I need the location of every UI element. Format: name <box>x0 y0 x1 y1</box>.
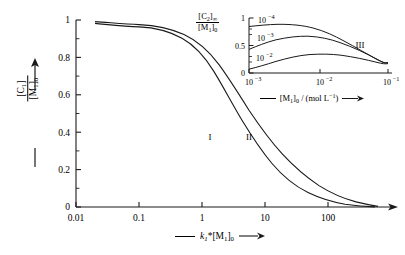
svg-text:10: 10 <box>257 34 265 43</box>
inset-xtick-10-1: 10 −1 <box>383 75 399 87</box>
main-plot-svg: 0 0.2 0.4 0.6 0.8 1 0.01 0.1 1 10 100 I … <box>0 0 405 255</box>
main-xtick-001: 0.01 <box>68 213 85 223</box>
svg-text:−4: −4 <box>268 13 275 20</box>
main-xtick-10: 10 <box>260 213 270 223</box>
inset-xtick-10-3: 10 −3 <box>245 75 261 87</box>
inset-ytick-0: 0 <box>241 69 245 78</box>
inset-y-numerator: [C2]∞ <box>196 12 219 22</box>
svg-text:−1: −1 <box>393 75 400 82</box>
main-x-axis-label: k1*[M1]0 <box>140 231 300 242</box>
main-xtick-01: 0.1 <box>133 213 145 223</box>
inset-x-label-arrow-icon <box>342 94 364 103</box>
main-ytick-04: 0.4 <box>58 128 70 138</box>
svg-text:−2: −2 <box>266 51 273 58</box>
inset-curve-label-10-4: 10 −4 <box>258 13 275 25</box>
main-ytick-0: 0 <box>65 202 70 212</box>
main-ytick-08: 0.8 <box>58 53 70 63</box>
inset-ytick-1: 1 <box>241 14 245 23</box>
main-curve-label-II: II <box>246 132 252 142</box>
svg-text:−3: −3 <box>267 31 274 38</box>
main-x-label-dash-left <box>175 236 195 237</box>
figure-container: [C1] [M1]0 <box>0 0 405 255</box>
main-xtick-1: 1 <box>200 213 205 223</box>
svg-text:−2: −2 <box>326 75 333 82</box>
inset-region-label-III: III <box>356 40 365 50</box>
inset-y-axis-label: [C2]∞ [M1]0 <box>196 12 219 34</box>
svg-text:−3: −3 <box>255 75 262 82</box>
inset-plot-group: 0 0.5 1 10 −3 10 −2 10 −1 <box>235 13 399 87</box>
main-ytick-06: 0.6 <box>58 90 70 100</box>
main-ytick-1: 1 <box>65 15 70 25</box>
main-ytick-02: 0.2 <box>58 165 70 175</box>
svg-text:10: 10 <box>383 78 391 87</box>
main-x-label-text: k1*[M1]0 <box>200 231 234 242</box>
inset-x-major-ticks <box>249 69 388 73</box>
svg-text:10: 10 <box>258 16 266 25</box>
main-x-label-arrow-icon <box>239 231 265 241</box>
inset-ytick-05: 0.5 <box>235 42 245 51</box>
inset-xtick-10-2: 10 −2 <box>316 75 332 87</box>
inset-x-label-dash-left <box>260 98 276 99</box>
inset-x-label-text: [M1]0 / (mol L−1) <box>280 93 339 104</box>
main-curve-label-I: I <box>209 132 212 142</box>
svg-text:10: 10 <box>245 78 253 87</box>
svg-text:10: 10 <box>256 54 264 63</box>
inset-curve-label-10-2: 10 −2 <box>256 51 273 63</box>
main-curve-I <box>95 23 375 207</box>
main-x-major-ticks <box>76 202 328 207</box>
inset-y-denominator: [M1]0 <box>196 22 219 33</box>
inset-x-axis-label: [M1]0 / (mol L−1) <box>222 93 402 104</box>
inset-curve-10-3 <box>249 36 388 63</box>
main-xtick-100: 100 <box>321 213 336 223</box>
svg-text:10: 10 <box>316 78 324 87</box>
